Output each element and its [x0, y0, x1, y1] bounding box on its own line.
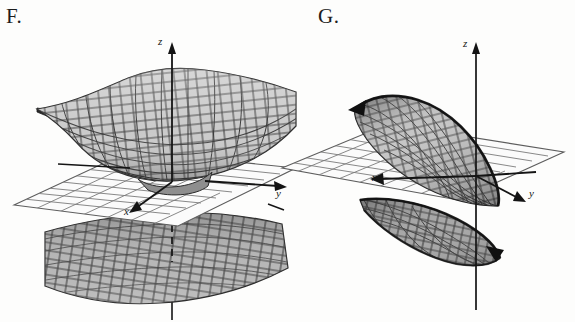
panel-g-scene — [300, 0, 575, 322]
axis-label-z-g: z — [463, 38, 467, 49]
figure-sheet: F. — [0, 0, 575, 322]
axis-label-x-f: x — [124, 206, 129, 217]
surface-g-lower-nappe — [340, 188, 530, 284]
axis-y-arrow-g — [513, 191, 526, 202]
axis-z-arrow-g — [472, 42, 480, 54]
panel-g: G. — [300, 0, 575, 322]
axis-tick-f — [268, 204, 284, 210]
axis-label-y-f: y — [276, 188, 281, 199]
axis-label-z-f: z — [158, 36, 162, 47]
axis-label-x-g: x — [372, 172, 377, 183]
panel-f-scene — [0, 0, 300, 322]
axis-z-arrow-f — [168, 42, 176, 54]
axis-label-y-g: y — [529, 188, 534, 199]
panel-f: F. — [0, 0, 300, 322]
